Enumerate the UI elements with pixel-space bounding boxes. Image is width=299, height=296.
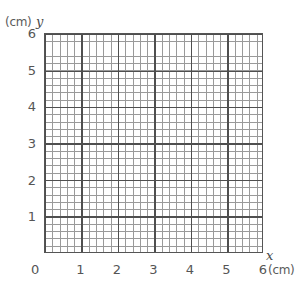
origin-tick-label-0: 0 bbox=[31, 263, 39, 276]
coordinate-grid-figure: (cm) y 6 5 4 3 2 1 0 1 2 3 4 5 6 x (cm) bbox=[0, 0, 299, 296]
x-axis-unit-label: (cm) bbox=[268, 264, 294, 276]
x-tick-label-4: 4 bbox=[182, 263, 198, 276]
y-tick-label-3: 3 bbox=[20, 137, 36, 150]
y-tick-label-2: 2 bbox=[20, 173, 36, 186]
x-tick-label-3: 3 bbox=[146, 263, 162, 276]
y-tick-label-1: 1 bbox=[20, 210, 36, 223]
y-axis-name-label: y bbox=[36, 15, 43, 28]
plot-grid-area bbox=[44, 33, 263, 253]
x-tick-label-5: 5 bbox=[219, 263, 235, 276]
y-tick-label-4: 4 bbox=[20, 100, 36, 113]
x-axis-name-label: x bbox=[266, 249, 273, 262]
x-tick-label-2: 2 bbox=[109, 263, 125, 276]
y-tick-label-5: 5 bbox=[20, 63, 36, 76]
y-tick-label-6: 6 bbox=[20, 27, 36, 40]
x-tick-label-1: 1 bbox=[73, 263, 89, 276]
